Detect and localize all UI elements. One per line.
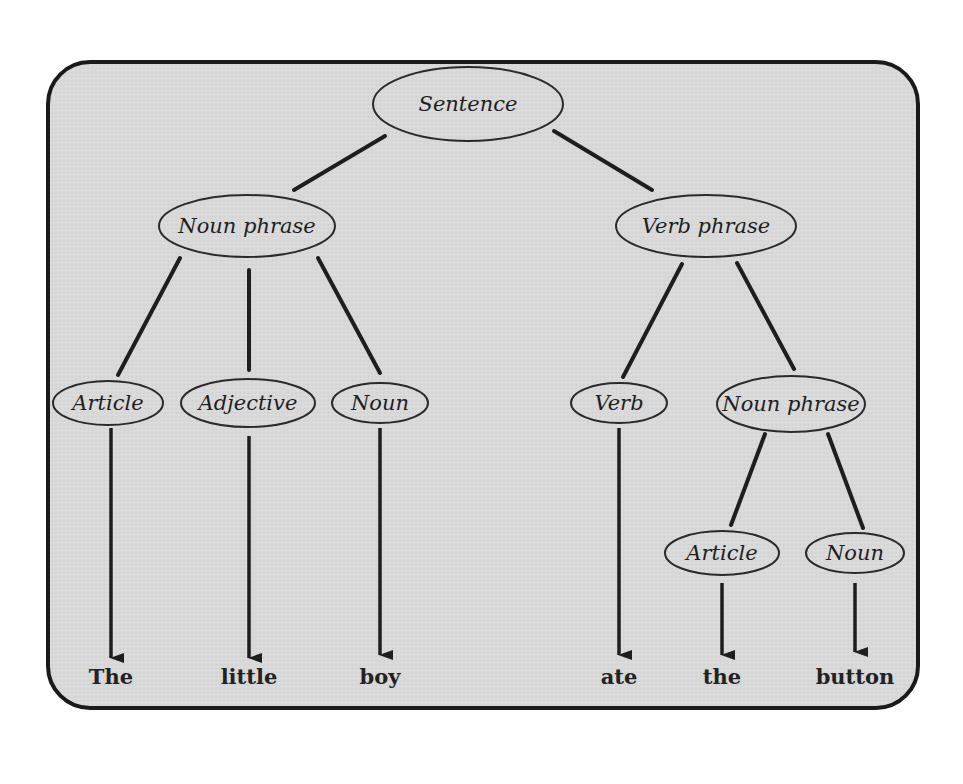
node-label: Article (70, 391, 143, 415)
leaf-word-the: The (89, 664, 133, 689)
node-label: Article (684, 541, 757, 565)
leaf-word-the: the (703, 664, 741, 689)
leaf-word-boy: boy (360, 664, 402, 689)
node-label: Sentence (419, 92, 518, 116)
leaf-word-little: little (221, 664, 278, 689)
node-label: Adjective (197, 391, 298, 415)
parse-tree-diagram: Sentence parse tree The little boy ate t… (0, 0, 963, 784)
node-label: Noun (350, 391, 409, 415)
node-label: Verb (594, 391, 643, 415)
parse-tree-canvas: SentenceNoun phraseVerb phraseArticleAdj… (0, 0, 963, 784)
node-label: Noun phrase (721, 392, 859, 416)
node-label: Noun (825, 541, 884, 565)
leaf-word-ate: ate (601, 664, 638, 689)
node-label: Verb phrase (642, 214, 771, 238)
diagram-panel (48, 62, 918, 708)
node-label: Noun phrase (177, 214, 315, 238)
leaf-word-button: button (816, 664, 895, 689)
